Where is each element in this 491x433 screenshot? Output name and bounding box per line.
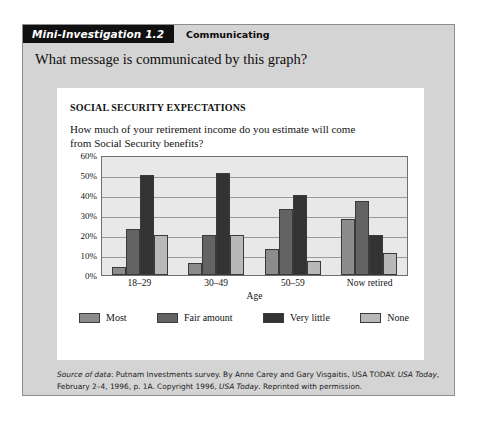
bar: [188, 263, 202, 275]
y-tick-label: 20%: [81, 231, 98, 241]
legend-swatch: [157, 313, 178, 323]
bar-group: [102, 157, 178, 275]
legend-label: Fair amount: [184, 312, 233, 323]
y-tick-label: 50%: [81, 171, 98, 181]
legend-entry: None: [360, 312, 409, 323]
bar: [140, 175, 154, 275]
y-tick-label: 0%: [85, 271, 97, 281]
bar: [293, 195, 307, 275]
source-note-italic1: USA Today: [398, 370, 437, 379]
x-tick-label: 30–49: [178, 278, 255, 288]
legend-swatch: [263, 313, 284, 323]
figure-question: How much of your retirement income do yo…: [57, 113, 370, 151]
legend-swatch: [79, 313, 100, 323]
bar: [154, 235, 168, 275]
source-note-italic2: USA Today: [219, 382, 258, 391]
bar: [369, 235, 383, 275]
x-tick-label: 18–29: [101, 278, 178, 288]
chart-legend: MostFair amountVery littleNone: [79, 312, 409, 323]
bar-group: [331, 157, 407, 275]
y-tick-label: 40%: [81, 191, 98, 201]
source-note: Source of data: Putnam Investments surve…: [57, 369, 449, 392]
x-tick-label: Now retired: [331, 278, 408, 288]
bar: [112, 267, 126, 275]
figure-title: SOCIAL SECURITY EXPECTATIONS: [57, 88, 424, 113]
bar: [126, 229, 140, 275]
legend-entry: Most: [79, 312, 127, 323]
bar: [202, 235, 216, 275]
mini-investigation-subject-label: Communicating: [174, 25, 269, 43]
bar: [265, 249, 279, 275]
source-note-lead: Source of data: [57, 370, 111, 379]
plot-area: [101, 156, 408, 276]
legend-swatch: [360, 313, 381, 323]
bar-group: [178, 157, 254, 275]
header-bar: Mini-Investigation 1.2 Communicating: [23, 25, 454, 43]
bar: [279, 209, 293, 275]
source-note-part1: : Putnam Investments survey. By Anne Car…: [111, 370, 398, 379]
mini-investigation-box: Mini-Investigation 1.2 Communicating Wha…: [22, 24, 455, 396]
bar: [355, 201, 369, 275]
y-axis: 0%10%20%30%40%50%60%: [70, 156, 99, 276]
investigation-prompt: What message is communicated by this gra…: [23, 43, 454, 68]
bar: [230, 235, 244, 275]
legend-label: Most: [106, 312, 127, 323]
bar: [216, 173, 230, 275]
figure-card: SOCIAL SECURITY EXPECTATIONS How much of…: [57, 88, 424, 360]
legend-label: Very little: [290, 312, 330, 323]
y-tick-label: 10%: [81, 251, 98, 261]
mini-investigation-tab-label: Mini-Investigation 1.2: [23, 25, 174, 43]
bar-group: [255, 157, 331, 275]
bar: [307, 261, 321, 275]
bar-chart: 0%10%20%30%40%50%60% 18–2930–4950–59Now …: [70, 156, 412, 291]
legend-entry: Fair amount: [157, 312, 233, 323]
legend-entry: Very little: [263, 312, 330, 323]
y-tick-label: 60%: [81, 151, 98, 161]
x-tick-label: 50–59: [255, 278, 332, 288]
source-note-part3: . Reprinted with permission.: [258, 382, 362, 391]
y-tick-label: 30%: [81, 211, 98, 221]
bars-layer: [102, 157, 407, 275]
bar: [341, 219, 355, 275]
x-axis-title: Age: [101, 291, 408, 301]
bar: [383, 253, 397, 275]
x-axis-tick-labels: 18–2930–4950–59Now retired: [101, 278, 408, 288]
legend-label: None: [387, 312, 409, 323]
